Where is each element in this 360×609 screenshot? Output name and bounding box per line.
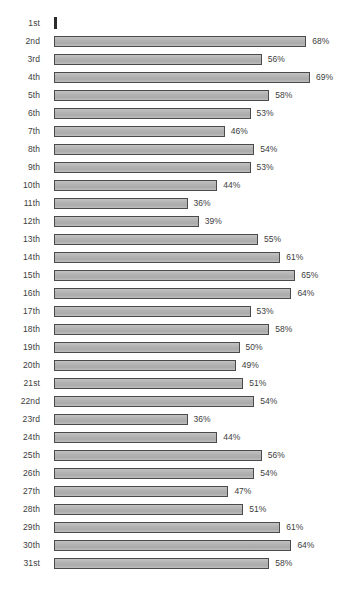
bar-value-label: 54% <box>260 140 277 158</box>
bar-row-label: 4th <box>0 68 40 86</box>
bar-value-label: 53% <box>257 302 274 320</box>
bar-value-label: 44% <box>223 428 240 446</box>
bar-track: 64% <box>54 284 360 302</box>
bar-row-label: 28th <box>0 500 40 518</box>
bar-value-label: 54% <box>260 464 277 482</box>
bar <box>54 558 269 569</box>
bar-row-label: 29th <box>0 518 40 536</box>
bar-track: 51% <box>54 500 360 518</box>
bar <box>54 324 269 335</box>
bar-track: 54% <box>54 140 360 158</box>
bar-row: 1st <box>0 14 360 32</box>
bar <box>54 414 188 425</box>
bar-row-label: 15th <box>0 266 40 284</box>
bar-value-label: 58% <box>275 320 292 338</box>
bar-row: 24th44% <box>0 428 360 446</box>
bar-row-label: 12th <box>0 212 40 230</box>
bar-row: 14th61% <box>0 248 360 266</box>
bar-row: 4th69% <box>0 68 360 86</box>
bar-value-label: 61% <box>286 518 303 536</box>
bar-value-label: 51% <box>249 374 266 392</box>
bar-row: 13th55% <box>0 230 360 248</box>
bar-value-label: 53% <box>257 104 274 122</box>
bar-row: 11th36% <box>0 194 360 212</box>
bar-row: 3rd56% <box>0 50 360 68</box>
bar-row-label: 20th <box>0 356 40 374</box>
bar <box>54 288 291 299</box>
bar-track: 53% <box>54 302 360 320</box>
bar-row-label: 3rd <box>0 50 40 68</box>
bar-row-label: 1st <box>0 14 40 32</box>
bar-row-label: 9th <box>0 158 40 176</box>
bar-row-label: 18th <box>0 320 40 338</box>
bar-value-label: 39% <box>205 212 222 230</box>
bar <box>54 540 291 551</box>
bar <box>54 252 280 263</box>
bar-track: 69% <box>54 68 360 86</box>
bar <box>54 17 57 29</box>
bar <box>54 72 310 83</box>
bar-track: 54% <box>54 464 360 482</box>
bar-row: 23rd36% <box>0 410 360 428</box>
bar-track: 51% <box>54 374 360 392</box>
bar-row-label: 10th <box>0 176 40 194</box>
bar-value-label: 58% <box>275 86 292 104</box>
bar <box>54 126 225 137</box>
bar <box>54 342 240 353</box>
bar-value-label: 50% <box>246 338 263 356</box>
bar-row: 21st51% <box>0 374 360 392</box>
bar-track: 44% <box>54 176 360 194</box>
bar-value-label: 46% <box>231 122 248 140</box>
bar-value-label: 64% <box>297 536 314 554</box>
bar-row-label: 17th <box>0 302 40 320</box>
bar-value-label: 58% <box>275 554 292 572</box>
bar-value-label: 44% <box>223 176 240 194</box>
bar-row-label: 21st <box>0 374 40 392</box>
bar <box>54 504 243 515</box>
bar-row: 7th46% <box>0 122 360 140</box>
bar-row-label: 26th <box>0 464 40 482</box>
bar-track: 36% <box>54 410 360 428</box>
bar <box>54 360 236 371</box>
bar-row: 30th64% <box>0 536 360 554</box>
bar-row: 12th39% <box>0 212 360 230</box>
bar-row: 29th61% <box>0 518 360 536</box>
bar-track: 47% <box>54 482 360 500</box>
bar-row: 22nd54% <box>0 392 360 410</box>
bar-value-label: 49% <box>242 356 259 374</box>
bar <box>54 522 280 533</box>
bar-track: 49% <box>54 356 360 374</box>
bar-row: 20th49% <box>0 356 360 374</box>
bar-track <box>54 14 360 32</box>
bar-row: 28th51% <box>0 500 360 518</box>
bar-row-label: 24th <box>0 428 40 446</box>
bar-track: 58% <box>54 554 360 572</box>
bar <box>54 270 295 281</box>
bar-track: 56% <box>54 446 360 464</box>
bar <box>54 144 254 155</box>
bar-rows-container: 1st2nd68%3rd56%4th69%5th58%6th53%7th46%8… <box>0 14 360 572</box>
bar-row-label: 11th <box>0 194 40 212</box>
bar <box>54 396 254 407</box>
bar-value-label: 36% <box>194 410 211 428</box>
bar-track: 46% <box>54 122 360 140</box>
bar-track: 58% <box>54 86 360 104</box>
bar-row-label: 14th <box>0 248 40 266</box>
bar-row: 19th50% <box>0 338 360 356</box>
bar-row-label: 13th <box>0 230 40 248</box>
bar <box>54 54 262 65</box>
bar-row: 27th47% <box>0 482 360 500</box>
bar <box>54 486 228 497</box>
bar <box>54 432 217 443</box>
bar-row-label: 6th <box>0 104 40 122</box>
bar <box>54 306 251 317</box>
bar <box>54 198 188 209</box>
bar-row: 6th53% <box>0 104 360 122</box>
bar-chart: 1st2nd68%3rd56%4th69%5th58%6th53%7th46%8… <box>0 0 360 609</box>
bar-track: 61% <box>54 518 360 536</box>
bar-track: 64% <box>54 536 360 554</box>
bar-value-label: 56% <box>268 446 285 464</box>
bar-row-label: 16th <box>0 284 40 302</box>
bar-row: 15th65% <box>0 266 360 284</box>
bar-row: 5th58% <box>0 86 360 104</box>
